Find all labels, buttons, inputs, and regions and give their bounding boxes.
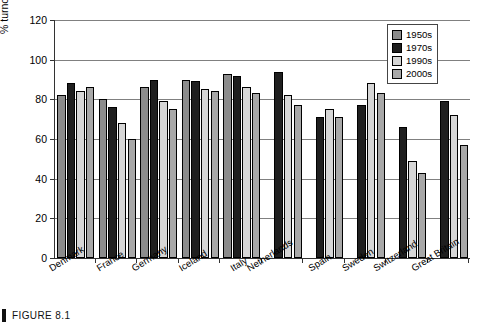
bar: [140, 87, 148, 258]
legend-item-1970s: 1970s: [392, 41, 432, 54]
bar: [377, 93, 385, 258]
legend-swatch-icon: [392, 69, 402, 79]
bar: [67, 83, 75, 258]
bar: [357, 105, 365, 258]
bar: [86, 87, 94, 258]
bar: [418, 173, 426, 258]
legend-swatch-icon: [392, 56, 402, 66]
figure-caption: FIGURE 8.1: [0, 306, 477, 324]
bar: [335, 117, 343, 258]
bar-group-denmark: [55, 20, 97, 258]
bar: [440, 101, 448, 258]
y-axis-tick-label: 20: [7, 212, 47, 224]
bar: [150, 80, 158, 259]
bar: [118, 123, 126, 258]
caption-marker-icon: [2, 309, 6, 322]
y-axis-tick-label: 80: [7, 93, 47, 105]
bar-group-germany: [138, 20, 180, 258]
legend-label: 1950s: [406, 30, 432, 40]
bar-group-sweden: [346, 20, 388, 258]
bar: [294, 105, 302, 258]
bar: [108, 107, 116, 258]
y-axis-tick-label: 40: [7, 173, 47, 185]
legend-label: 1970s: [406, 43, 432, 53]
chart-figure: % turnout of registered voters 020406080…: [0, 0, 477, 324]
bar-group-italy: [221, 20, 263, 258]
legend-item-1990s: 1990s: [392, 54, 432, 67]
bar: [128, 139, 136, 258]
bar: [159, 101, 167, 258]
bar: [76, 91, 84, 258]
bar-group-iceland: [180, 20, 222, 258]
bar: [223, 74, 231, 258]
bar-group-france: [97, 20, 139, 258]
bar: [367, 83, 375, 258]
bar: [211, 91, 219, 258]
legend-label: 1990s: [406, 56, 432, 66]
legend-item-1950s: 1950s: [392, 28, 432, 41]
legend-item-2000s: 2000s: [392, 67, 432, 80]
bar: [274, 72, 282, 258]
bar: [252, 93, 260, 258]
bar: [284, 95, 292, 258]
bar: [316, 117, 324, 258]
bar: [325, 109, 333, 258]
bar: [169, 109, 177, 258]
chart-legend: 1950s1970s1990s2000s: [387, 24, 438, 84]
bar: [201, 89, 209, 258]
bar: [99, 99, 107, 258]
legend-swatch-icon: [392, 43, 402, 53]
caption-label: FIGURE 8.1: [12, 310, 70, 321]
y-axis-tick-label: 60: [7, 133, 47, 145]
y-axis-tick-label: 100: [7, 54, 47, 66]
bar: [191, 81, 199, 258]
legend-label: 2000s: [406, 69, 432, 79]
legend-swatch-icon: [392, 30, 402, 40]
bar-group-spain: [304, 20, 346, 258]
bar: [242, 87, 250, 258]
bar: [57, 95, 65, 258]
bar: [460, 145, 468, 258]
y-axis-tick-label: 0: [7, 252, 47, 264]
bar: [399, 127, 407, 258]
bar-group-netherlands: [263, 20, 305, 258]
bar: [233, 76, 241, 258]
y-axis-tick-label: 120: [7, 14, 47, 26]
bar: [182, 80, 190, 259]
